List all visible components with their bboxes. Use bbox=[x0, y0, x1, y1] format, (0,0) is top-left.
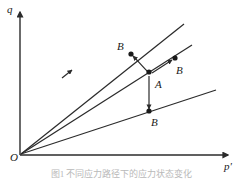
point-marker-b-bottom bbox=[146, 108, 151, 113]
point-label-b-right: B bbox=[176, 65, 183, 76]
transition-arrows-group bbox=[133, 56, 172, 109]
figure-caption: 图1 不同应力路径下的应力状态变化 bbox=[0, 168, 243, 180]
point-marker-b-right bbox=[172, 55, 177, 60]
origin-label: O bbox=[10, 152, 18, 163]
shallow-stress-path-line bbox=[21, 90, 216, 154]
steep-line-direction-arrow-icon bbox=[62, 70, 72, 78]
middle-stress-path-line bbox=[21, 45, 192, 154]
axes-group bbox=[20, 12, 228, 155]
point-label-b-bottom: B bbox=[151, 117, 158, 128]
point-label-b-top: B bbox=[117, 41, 124, 52]
figure-container: q p' O B B A B 图1 不同应力路径下的应力状态变化 bbox=[0, 0, 243, 181]
stress-path-diagram bbox=[0, 0, 243, 181]
point-label-a: A bbox=[155, 79, 162, 90]
point-marker-b-top bbox=[128, 51, 133, 56]
arrow-a-to-b-right bbox=[152, 60, 172, 73]
y-axis-label: q bbox=[7, 4, 13, 15]
point-marker-a bbox=[146, 69, 151, 74]
